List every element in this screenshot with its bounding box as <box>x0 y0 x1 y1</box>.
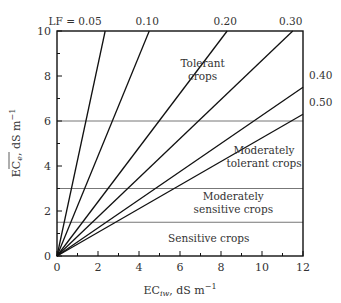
x-axis-title: ECiw, dS m−1 <box>143 282 216 298</box>
zone-label: Moderatelytolerant crops <box>227 144 302 169</box>
salinity-leaching-chart: 0246810120246810 LF = 0.050.100.200.300.… <box>0 0 341 303</box>
lf-label: 0.40 <box>309 69 332 81</box>
svg-text:ECe, dS m−1: ECe, dS m−1 <box>8 109 24 177</box>
zone-label: Tolerantcrops <box>180 57 225 82</box>
lf-label: 0.20 <box>213 15 236 27</box>
x-tick-label: 4 <box>136 261 143 274</box>
x-tick-label: 12 <box>296 261 310 274</box>
y-axis-title: ECe, dS m−1 <box>8 109 24 177</box>
lf-label: 0.30 <box>279 15 302 27</box>
lf-line <box>57 87 303 256</box>
x-tick-label: 8 <box>218 261 225 274</box>
y-tick-label: 6 <box>44 115 51 128</box>
zone-label: Moderatelysensitive crops <box>194 190 274 215</box>
y-tick-label: 0 <box>44 250 51 263</box>
x-tick-label: 10 <box>255 261 269 274</box>
x-tick-label: 0 <box>54 261 61 274</box>
zone-labels: TolerantcropsModeratelytolerant cropsMod… <box>168 57 302 245</box>
y-tick-label: 8 <box>44 70 51 83</box>
lf-label: 0.50 <box>309 96 332 108</box>
x-tick-label: 6 <box>177 261 184 274</box>
zone-label: Sensitive crops <box>168 232 249 244</box>
lf-label: LF = 0.05 <box>49 15 102 27</box>
lf-label: 0.10 <box>136 15 159 27</box>
x-tick-label: 2 <box>95 261 102 274</box>
y-tick-label: 2 <box>44 205 51 218</box>
y-tick-label: 4 <box>44 160 51 173</box>
